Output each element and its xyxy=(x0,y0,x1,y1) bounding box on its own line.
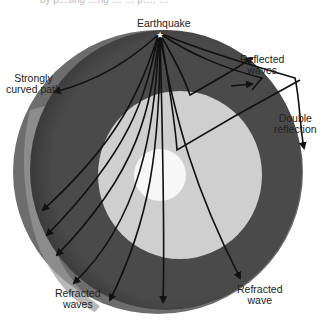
label-refracted-waves: Refracted waves xyxy=(55,288,101,310)
label-double-reflection: Double reflection xyxy=(274,113,317,135)
inner-core xyxy=(134,149,186,201)
label-line: reflection xyxy=(274,124,317,135)
label-line: curved path xyxy=(6,84,61,95)
label-line: waves xyxy=(240,65,284,76)
label-line: wave xyxy=(237,295,283,306)
label-reflected-waves: Reflected waves xyxy=(240,54,284,76)
label-refracted-wave: Refracted wave xyxy=(237,284,283,306)
earth-cross-section: ★ xyxy=(0,0,327,331)
label-earthquake: Earthquake xyxy=(137,18,191,29)
earthquake-star-icon: ★ xyxy=(156,30,164,40)
label-strongly-curved-path: Strongly curved path xyxy=(6,73,61,95)
label-line: waves xyxy=(55,299,101,310)
